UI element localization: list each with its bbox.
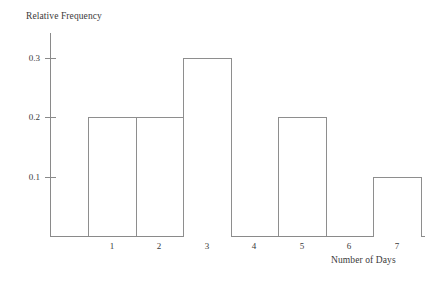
histogram-bar [136, 117, 185, 236]
histogram-bar [88, 117, 137, 236]
x-tick-label: 7 [395, 241, 400, 251]
y-axis-line [50, 33, 51, 237]
x-axis-title: Number of Days [331, 255, 396, 266]
y-tick-mark [45, 58, 56, 59]
y-tick-label: 0.1 [6, 172, 40, 182]
histogram-bar [278, 117, 327, 236]
x-tick-label: 5 [300, 241, 305, 251]
y-tick-label: 0.3 [6, 53, 40, 63]
y-tick-mark [45, 117, 56, 118]
x-axis-line [50, 236, 425, 237]
y-tick-label: 0.2 [6, 112, 40, 122]
x-tick-label: 6 [347, 241, 352, 251]
histogram-bar [183, 58, 232, 237]
x-tick-label: 4 [252, 241, 257, 251]
histogram-bar [373, 177, 422, 237]
x-tick-label: 3 [205, 241, 210, 251]
x-tick-label: 1 [110, 241, 115, 251]
x-tick-label: 2 [157, 241, 162, 251]
histogram-chart: Relative Frequency Number of Days 0.30.2… [0, 0, 447, 286]
y-axis-title: Relative Frequency [26, 11, 102, 22]
y-tick-mark [45, 177, 56, 178]
